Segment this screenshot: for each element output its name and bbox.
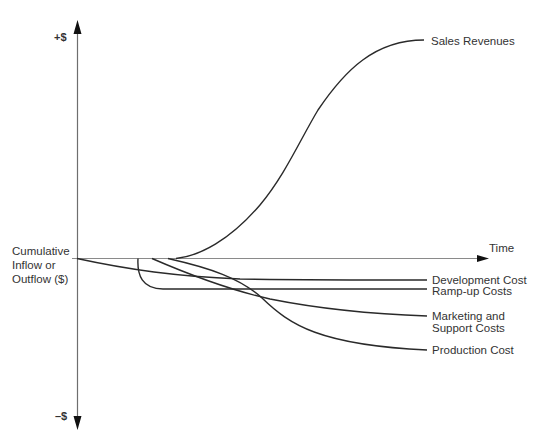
marketing-label-line2: Support Costs bbox=[432, 322, 505, 334]
y-axis-title-line1: Cumulative bbox=[12, 245, 70, 257]
sales-revenues-label: Sales Revenues bbox=[431, 35, 515, 47]
development-cost-curve bbox=[77, 259, 427, 281]
rampup-costs-label: Ramp-up Costs bbox=[432, 285, 512, 297]
x-axis-right-arrow-icon bbox=[477, 255, 489, 262]
production-cost-label: Production Cost bbox=[432, 344, 514, 356]
sales-revenues-curve bbox=[176, 40, 424, 259]
y-axis-title-line3: Outflow ($) bbox=[12, 273, 68, 285]
y-axis-up-arrow-icon bbox=[74, 20, 82, 34]
y-axis-down-arrow-icon bbox=[74, 416, 82, 430]
y-plus-label: +$ bbox=[54, 31, 67, 43]
marketing-label-line1: Marketing and bbox=[432, 310, 505, 322]
y-axis-title-line2: Inflow or bbox=[12, 259, 55, 271]
chart-canvas bbox=[0, 0, 542, 446]
marketing-support-costs-curve bbox=[152, 259, 427, 317]
rampup-costs-curve bbox=[138, 259, 427, 290]
y-minus-label: –$ bbox=[55, 410, 67, 422]
x-axis-title: Time bbox=[489, 242, 514, 254]
